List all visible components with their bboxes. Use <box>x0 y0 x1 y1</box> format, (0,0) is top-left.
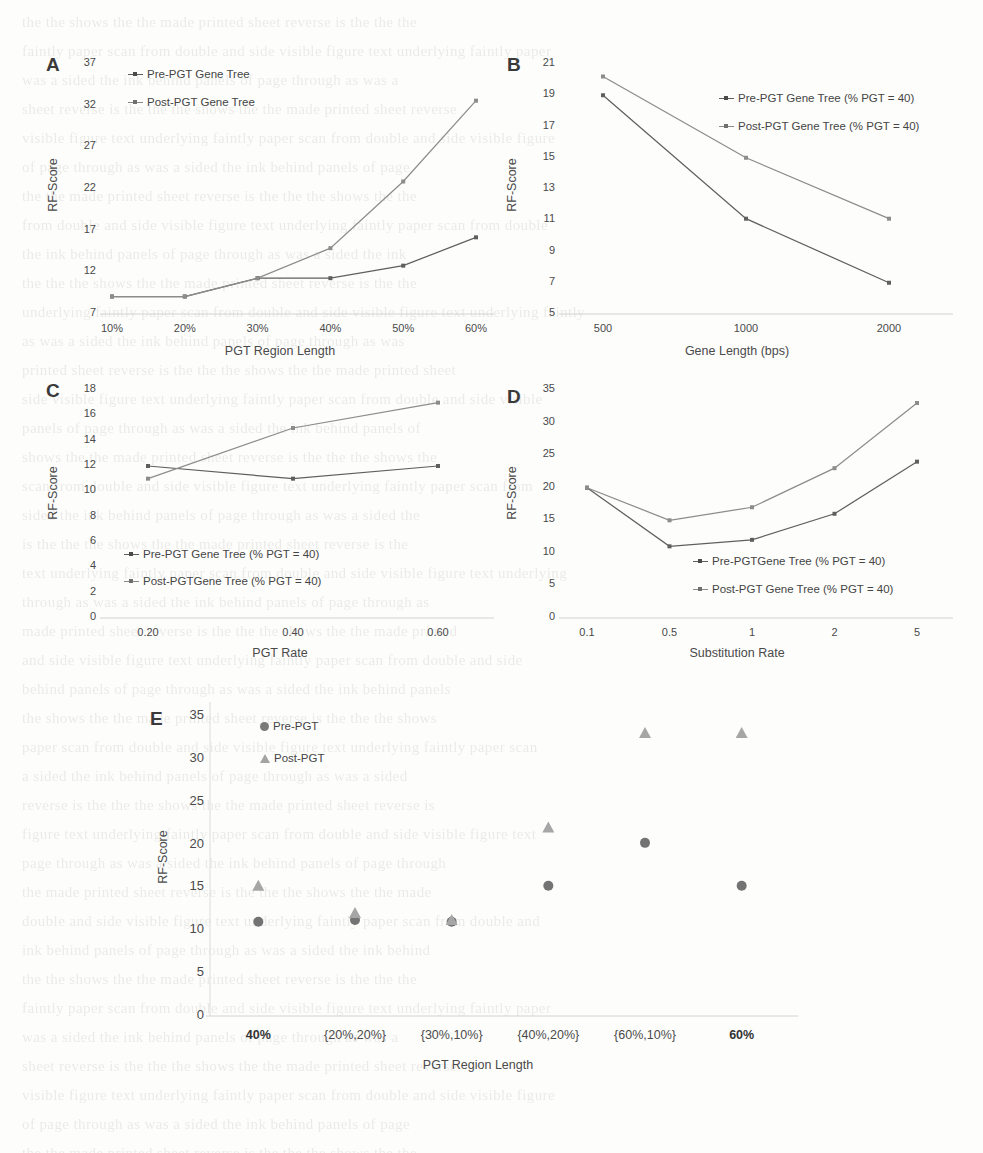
y-tick-label: 8 <box>70 509 96 521</box>
x-tick-label: {20%,20%} <box>305 1028 405 1042</box>
x-tick-label: 500 <box>573 322 633 334</box>
x-tick-label: 2000 <box>859 322 919 334</box>
y-tick-label: 25 <box>176 793 204 808</box>
x-tick-label: 50% <box>373 322 433 334</box>
panel-d: D RF-Score Substitution Rate Pre-PGTGene… <box>497 378 957 678</box>
line-marker-icon <box>124 581 139 582</box>
panel-e-letter: E <box>150 708 163 730</box>
panel-d-x-axis-title: Substitution Rate <box>537 646 937 660</box>
panel-e-y-axis-title: RF-Score <box>156 822 170 892</box>
line-marker-icon <box>693 589 708 590</box>
x-tick-label: 5 <box>887 626 947 638</box>
panel-a-legend-post: Post-PGT Gene Tree <box>128 96 255 108</box>
y-tick-label: 7 <box>529 275 555 287</box>
panel-e-legend-pre-label: Pre-PGT <box>273 720 318 732</box>
y-tick-label: 13 <box>529 181 555 193</box>
y-tick-label: 10 <box>70 483 96 495</box>
y-tick-label: 5 <box>529 306 555 318</box>
panel-c-letter: C <box>46 380 60 402</box>
y-tick-label: 12 <box>70 458 96 470</box>
y-tick-label: 6 <box>70 534 96 546</box>
y-tick-label: 14 <box>70 433 96 445</box>
x-tick-label: 30% <box>228 322 288 334</box>
y-tick-label: 0 <box>70 610 96 622</box>
x-tick-label: 1000 <box>716 322 776 334</box>
x-tick-label: {40%,20%} <box>498 1028 598 1042</box>
x-tick-label: 20% <box>155 322 215 334</box>
y-tick-label: 10 <box>529 545 555 557</box>
y-tick-label: 15 <box>529 512 555 524</box>
y-tick-label: 16 <box>70 407 96 419</box>
circle-marker-icon <box>260 722 269 731</box>
y-tick-label: 30 <box>529 415 555 427</box>
x-tick-label: 10% <box>82 322 142 334</box>
panel-e-legend-pre: Pre-PGT <box>260 720 318 732</box>
y-tick-label: 7 <box>70 306 96 318</box>
y-tick-label: 32 <box>70 98 96 110</box>
line-marker-icon <box>128 102 143 103</box>
panel-a-y-axis-title: RF-Score <box>46 150 60 220</box>
y-tick-label: 25 <box>529 447 555 459</box>
panel-b-y-axis-title: RF-Score <box>505 150 519 220</box>
panel-d-legend-post-label: Post-PGT Gene Tree (% PGT = 40) <box>712 583 893 595</box>
panel-c-legend-post: Post-PGTGene Tree (% PGT = 40) <box>124 575 321 587</box>
panel-b-legend-post-label: Post-PGT Gene Tree (% PGT = 40) <box>738 120 919 132</box>
x-tick-label: {60%,10%} <box>595 1028 695 1042</box>
panel-e-x-axis-title: PGT Region Length <box>278 1058 678 1072</box>
panel-a-x-axis-title: PGT Region Length <box>80 344 480 358</box>
y-tick-label: 27 <box>70 139 96 151</box>
panel-d-y-axis-title: RF-Score <box>505 458 519 528</box>
y-tick-label: 22 <box>70 181 96 193</box>
y-tick-label: 12 <box>70 264 96 276</box>
y-tick-label: 18 <box>70 382 96 394</box>
panel-d-legend-post: Post-PGT Gene Tree (% PGT = 40) <box>693 583 893 595</box>
figure-root: the the shows the the made printed sheet… <box>0 0 983 1153</box>
x-tick-label: 0.60 <box>408 626 468 638</box>
y-tick-label: 15 <box>529 150 555 162</box>
x-tick-label: 0.1 <box>557 626 617 638</box>
panel-a-legend-pre: Pre-PGT Gene Tree <box>128 68 250 80</box>
panel-d-legend-pre: Pre-PGTGene Tree (% PGT = 40) <box>693 555 885 567</box>
y-tick-label: 0 <box>529 610 555 622</box>
panel-a-letter: A <box>46 54 60 76</box>
panel-e: E RF-Score PGT Region Length Pre-PGT Pos… <box>148 700 828 1120</box>
x-tick-label: 0.5 <box>640 626 700 638</box>
line-marker-icon <box>693 561 708 562</box>
y-tick-label: 10 <box>176 921 204 936</box>
panel-c-legend-pre-label: Pre-PGT Gene Tree (% PGT = 40) <box>143 548 319 560</box>
triangle-marker-icon <box>260 754 270 763</box>
panel-a: A RF-Score PGT Region Length Pre-PGT Gen… <box>40 48 490 378</box>
y-tick-label: 17 <box>70 223 96 235</box>
y-tick-label: 20 <box>529 480 555 492</box>
y-tick-label: 35 <box>176 707 204 722</box>
panel-e-legend-post-label: Post-PGT <box>274 752 324 764</box>
line-marker-icon <box>124 554 139 555</box>
panel-c-legend-pre: Pre-PGT Gene Tree (% PGT = 40) <box>124 548 319 560</box>
x-tick-label: 1 <box>722 626 782 638</box>
panel-b-legend-post: Post-PGT Gene Tree (% PGT = 40) <box>719 120 919 132</box>
y-tick-label: 11 <box>529 212 555 224</box>
panel-c-legend-post-label: Post-PGTGene Tree (% PGT = 40) <box>143 575 321 587</box>
y-tick-label: 15 <box>176 878 204 893</box>
panel-c-y-axis-title: RF-Score <box>46 458 60 528</box>
y-tick-label: 2 <box>70 585 96 597</box>
x-tick-label: {30%,10%} <box>402 1028 502 1042</box>
y-tick-label: 5 <box>529 577 555 589</box>
panel-b-letter: B <box>507 54 521 76</box>
panel-b-legend-pre: Pre-PGT Gene Tree (% PGT = 40) <box>719 92 914 104</box>
y-tick-label: 5 <box>176 964 204 979</box>
line-marker-icon <box>719 98 734 99</box>
y-tick-label: 21 <box>529 56 555 68</box>
y-tick-label: 17 <box>529 119 555 131</box>
y-tick-label: 9 <box>529 244 555 256</box>
x-tick-label: 40% <box>300 322 360 334</box>
y-tick-label: 0 <box>176 1007 204 1022</box>
x-tick-label: 0.20 <box>118 626 178 638</box>
y-tick-label: 4 <box>70 559 96 571</box>
panel-c-x-axis-title: PGT Rate <box>80 646 480 660</box>
panel-b-legend-pre-label: Pre-PGT Gene Tree (% PGT = 40) <box>738 92 914 104</box>
y-tick-label: 20 <box>176 836 204 851</box>
panel-d-legend-pre-label: Pre-PGTGene Tree (% PGT = 40) <box>712 555 885 567</box>
panel-b: B RF-Score Gene Length (bps) Pre-PGT Gen… <box>497 48 957 378</box>
y-tick-label: 37 <box>70 56 96 68</box>
